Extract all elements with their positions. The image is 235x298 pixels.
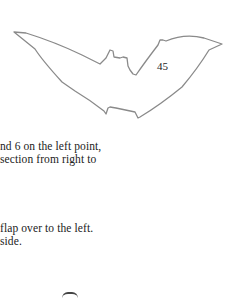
partial-figure-mark (62, 292, 78, 298)
text-line: flap over to the left. (0, 222, 93, 234)
text-line: side. (0, 235, 22, 247)
bat-outline-icon (0, 0, 235, 130)
page-number: 45 (157, 60, 168, 72)
text-line: nd 6 on the left point, (0, 140, 101, 152)
text-line: section from right to (0, 153, 96, 165)
